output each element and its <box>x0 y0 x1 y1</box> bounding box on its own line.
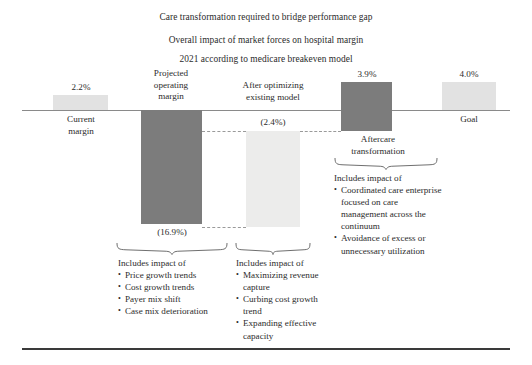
category-line: Aftercare <box>361 134 395 144</box>
brace-middle <box>235 242 311 255</box>
category-label-current-margin: Current margin <box>46 114 116 137</box>
waterfall-chart-figure: Care transformation required to bridge p… <box>0 0 532 365</box>
bottom-divider <box>22 348 510 350</box>
annotation-bullet-list: Price growth trends Cost growth trends P… <box>118 269 246 317</box>
annotation-aftercare-transformation: Includes impact of Coordinated care ente… <box>334 172 446 257</box>
connector-optimizing-to-aftercare <box>300 131 341 132</box>
chart-subtitle: Overall impact of market forces on hospi… <box>0 34 532 46</box>
value-label-projected-operating-margin: (16.9%) <box>138 227 206 238</box>
bar-after-optimizing-existing-model <box>246 131 300 227</box>
annotation-after-optimizing-existing-model: Includes impact of Maximizing revenue ca… <box>236 257 320 342</box>
annotation-bullet: Price growth trends <box>118 269 246 281</box>
category-label-after-optimizing-existing-model: After optimizing existing model <box>222 80 324 103</box>
value-label-current-margin: 2.2% <box>50 82 112 93</box>
annotation-bullet: Payer mix shift <box>118 293 246 305</box>
annotation-bullet: Avoidance of excess or unnecessary utili… <box>334 232 446 256</box>
chart-subtitle-secondary: 2021 according to medicare breakeven mod… <box>0 53 532 65</box>
annotation-bullet-list: Maximizing revenue capture Curbing cost … <box>236 269 320 342</box>
bar-current-margin <box>53 95 108 110</box>
category-line: After optimizing <box>243 80 304 90</box>
category-line: Goal <box>460 114 478 124</box>
category-line: existing model <box>246 92 300 102</box>
annotation-heading: Includes impact of <box>118 257 246 269</box>
annotation-heading: Includes impact of <box>236 257 320 269</box>
bar-goal <box>442 82 496 110</box>
category-label-projected-operating-margin: Projected operating margin <box>134 68 208 103</box>
category-line: operating <box>154 80 188 90</box>
category-label-aftercare-transformation: Aftercare transformation <box>328 134 428 157</box>
bar-aftercare-transformation <box>341 82 392 131</box>
category-line: Projected <box>154 68 188 78</box>
annotation-bullet: Coordinated care enterprise focused on c… <box>334 184 446 232</box>
value-label-aftercare-transformation: 3.9% <box>336 69 398 80</box>
annotation-heading: Includes impact of <box>334 172 446 184</box>
annotation-bullet: Maximizing revenue capture <box>236 269 320 293</box>
annotation-bullet: Cost growth trends <box>118 281 246 293</box>
bar-projected-operating-margin <box>141 110 202 224</box>
value-label-after-optimizing: (2.4%) <box>240 117 306 128</box>
category-line: transformation <box>351 146 405 156</box>
axis-baseline <box>22 110 510 111</box>
annotation-bullet: Expanding effective capacity <box>236 317 320 341</box>
connector-optimizing-bottom <box>202 227 246 228</box>
annotation-bullet-list: Coordinated care enterprise focused on c… <box>334 184 446 257</box>
connector-projected-to-optimizing <box>202 131 246 132</box>
chart-title: Care transformation required to bridge p… <box>0 11 532 23</box>
brace-right <box>334 157 438 170</box>
annotation-bullet: Curbing cost growth trend <box>236 293 320 317</box>
category-line: margin <box>158 91 184 101</box>
brace-left <box>116 242 228 255</box>
annotation-bullet: Case mix deterioration <box>118 305 246 317</box>
category-line: margin <box>68 126 94 136</box>
annotation-projected-operating-margin: Includes impact of Price growth trends C… <box>118 257 246 317</box>
category-line: Current <box>67 114 95 124</box>
category-label-goal: Goal <box>438 114 500 126</box>
value-label-goal: 4.0% <box>438 69 500 80</box>
